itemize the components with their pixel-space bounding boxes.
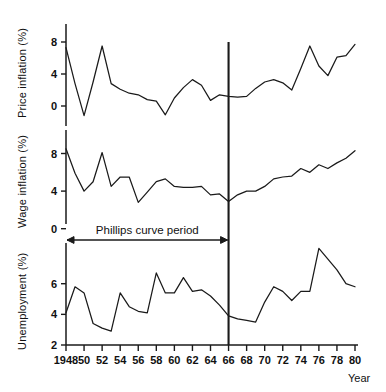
y-tick-label: 6 bbox=[51, 278, 57, 290]
x-tick-label: 50 bbox=[78, 354, 90, 366]
x-tick-label: 52 bbox=[96, 354, 108, 366]
y-tick-label: 4 bbox=[51, 68, 58, 80]
wage-series-line bbox=[66, 149, 355, 203]
x-tick-label: 68 bbox=[241, 354, 253, 366]
y-tick-label: 4 bbox=[51, 185, 58, 197]
x-tick-label: 76 bbox=[313, 354, 325, 366]
phillips-curve-figure: Price inflation (%) Wage inflation (%) U… bbox=[0, 0, 386, 392]
y-tick-label: 8 bbox=[51, 36, 57, 48]
y-tick-label: 0 bbox=[51, 100, 57, 112]
x-tick-label: 78 bbox=[331, 354, 343, 366]
y-tick-label: 8 bbox=[51, 148, 57, 160]
unemployment-series-line bbox=[66, 248, 355, 331]
chart-canvas: 0480482461948505254565860626466687072747… bbox=[0, 0, 386, 392]
x-tick-label: 56 bbox=[132, 354, 144, 366]
x-tick-label: 66 bbox=[222, 354, 234, 366]
x-tick-label: 58 bbox=[150, 354, 162, 366]
y-tick-label: 0 bbox=[51, 223, 57, 235]
y-tick-label: 4 bbox=[51, 308, 58, 320]
phillips-period-arrow-head-right bbox=[221, 237, 228, 244]
phillips-period-label: Phillips curve period bbox=[96, 224, 199, 236]
x-tick-label: 1948 bbox=[54, 354, 78, 366]
x-tick-label: 70 bbox=[259, 354, 271, 366]
x-tick-label: 80 bbox=[349, 354, 361, 366]
phillips-period-arrow-head-left bbox=[67, 237, 74, 244]
x-tick-label: 54 bbox=[114, 354, 127, 366]
x-tick-label: 72 bbox=[277, 354, 289, 366]
x-tick-label: 62 bbox=[186, 354, 198, 366]
x-tick-label: 64 bbox=[204, 354, 217, 366]
x-tick-label: 74 bbox=[295, 354, 308, 366]
y-tick-label: 2 bbox=[51, 339, 57, 351]
price-series-line bbox=[66, 44, 355, 115]
x-tick-label: 60 bbox=[168, 354, 180, 366]
